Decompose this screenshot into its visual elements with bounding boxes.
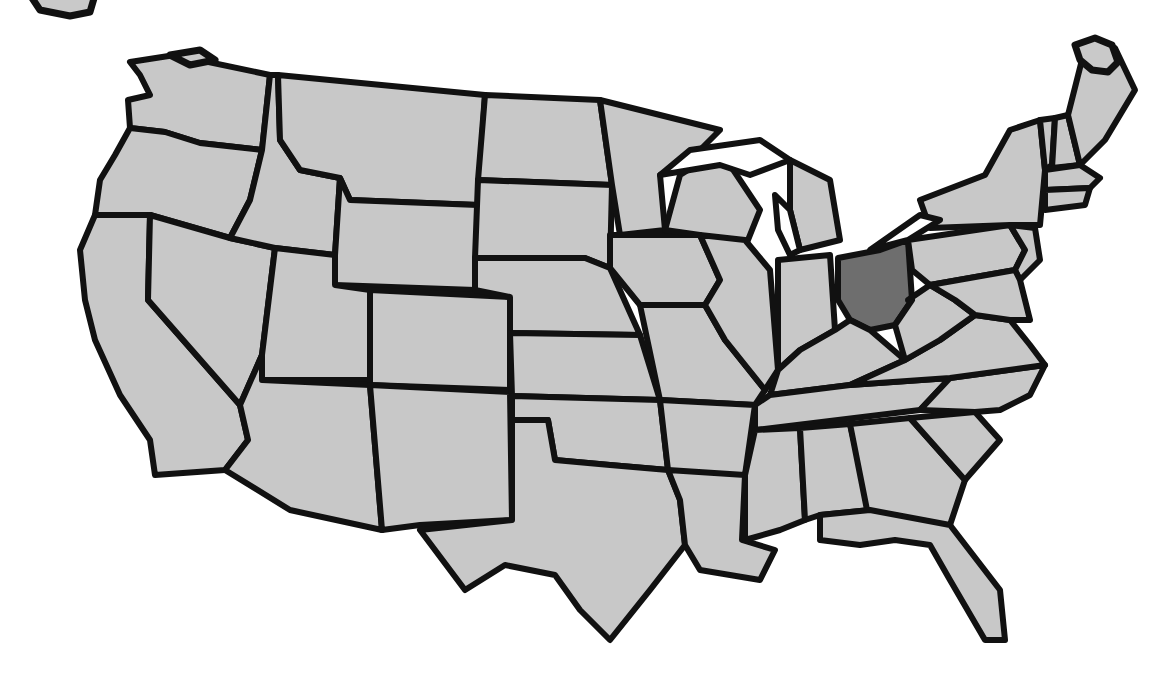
us-map-svg [0, 0, 1167, 693]
state-kansas[interactable] [510, 333, 660, 400]
state-north-dakota[interactable] [478, 95, 612, 185]
top-edge-fragments [30, 0, 1118, 72]
fragment-left [30, 0, 95, 16]
state-florida[interactable] [820, 510, 1005, 640]
us-map [0, 0, 1167, 693]
state-colorado[interactable] [370, 290, 510, 390]
states-layer [80, 48, 1135, 640]
state-connecticut-rhode-island[interactable] [1045, 188, 1090, 210]
state-new-mexico[interactable] [370, 385, 512, 530]
state-south-dakota[interactable] [475, 180, 612, 268]
state-mississippi[interactable] [745, 428, 805, 540]
state-new-york[interactable] [920, 120, 1045, 228]
